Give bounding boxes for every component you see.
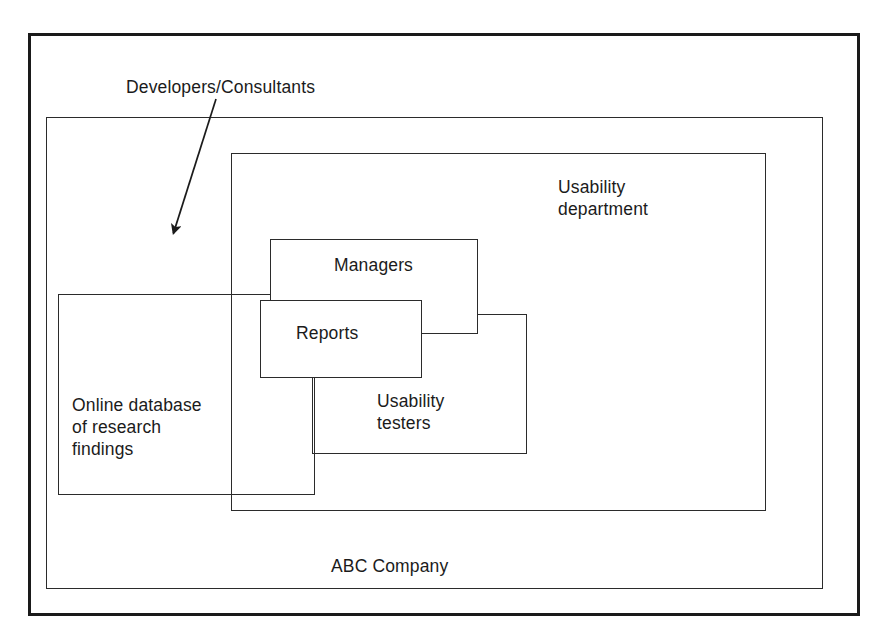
managers-label: Managers [334, 254, 413, 276]
diagram-canvas: Usability department Managers Reports Us… [0, 0, 890, 643]
abc-company-label: ABC Company [331, 555, 448, 577]
online-database-label: Online database of research findings [72, 394, 202, 460]
reports-label: Reports [296, 322, 358, 344]
usability-testers-label: Usability testers [377, 390, 444, 434]
developers-consultants-label: Developers/Consultants [126, 76, 315, 98]
usability-department-label: Usability department [558, 176, 648, 220]
